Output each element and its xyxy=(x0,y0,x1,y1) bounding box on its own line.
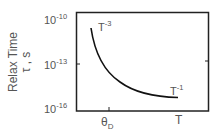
annotation-t-minus-3: T-3 xyxy=(98,19,111,33)
y-axis-label: Relax Time xyxy=(6,32,20,92)
relax-time-chart: 10-10 10-13 10-16 Relax Time τ , s T-3 T… xyxy=(0,0,218,137)
annotation-t-minus-1: T-1 xyxy=(170,83,183,97)
y-tick-label-1e-13: 10-13 xyxy=(44,57,67,71)
y-tick-label-1e-10: 10-10 xyxy=(44,12,67,26)
x-axis-label: T xyxy=(175,113,183,127)
plot-frame xyxy=(77,13,209,112)
relax-time-curve xyxy=(91,28,178,98)
y-axis-symbol: τ , s xyxy=(19,52,33,73)
x-tick-label-theta-d: θD xyxy=(101,115,114,131)
y-tick-label-1e-16: 10-16 xyxy=(44,101,67,115)
